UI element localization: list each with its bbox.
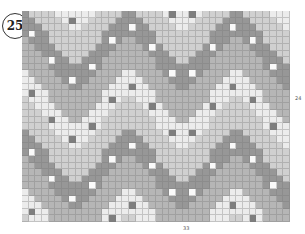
row-count-label: 24 xyxy=(295,95,301,101)
chart-cell xyxy=(76,44,83,51)
chart-cell xyxy=(42,18,49,25)
chart-cell xyxy=(183,44,190,51)
chart-cell xyxy=(263,182,270,189)
chart-cell xyxy=(183,189,190,196)
chart-cell xyxy=(230,176,237,183)
chart-cell xyxy=(35,84,42,91)
chart-cell xyxy=(102,130,109,137)
chart-cell xyxy=(169,77,176,84)
chart-cell xyxy=(283,202,290,209)
chart-cell xyxy=(35,103,42,110)
chart-cell xyxy=(29,163,36,170)
chart-cell xyxy=(163,117,170,124)
chart-cell xyxy=(216,123,223,130)
chart-cell xyxy=(69,51,76,58)
chart-cell xyxy=(163,189,170,196)
chart-cell xyxy=(169,103,176,110)
chart-cell xyxy=(62,196,69,203)
chart-cell xyxy=(149,51,156,58)
chart-cell xyxy=(89,70,96,77)
chart-cell xyxy=(42,163,49,170)
chart-cell xyxy=(196,18,203,25)
chart-cell xyxy=(96,182,103,189)
chart-cell xyxy=(250,169,257,176)
chart-cell xyxy=(129,156,136,163)
chart-cell xyxy=(116,37,123,44)
chart-cell xyxy=(129,182,136,189)
chart-cell xyxy=(136,209,143,216)
chart-cell xyxy=(189,136,196,143)
chart-cell xyxy=(223,44,230,51)
chart-cell xyxy=(183,51,190,58)
chart-cell xyxy=(82,64,89,71)
chart-cell xyxy=(89,176,96,183)
chart-cell xyxy=(42,169,49,176)
chart-cell xyxy=(270,18,277,25)
chart-cell xyxy=(116,31,123,38)
chart-cell xyxy=(42,97,49,104)
chart-cell xyxy=(283,149,290,156)
chart-cell xyxy=(149,97,156,104)
chart-cell xyxy=(263,44,270,51)
chart-cell xyxy=(62,77,69,84)
chart-cell xyxy=(156,51,163,58)
chart-cell xyxy=(270,70,277,77)
chart-cell xyxy=(96,31,103,38)
chart-cell xyxy=(102,57,109,64)
chart-cell xyxy=(143,70,150,77)
chart-cell xyxy=(49,97,56,104)
chart-cell xyxy=(183,130,190,137)
chart-cell xyxy=(256,117,263,124)
chart-cell xyxy=(176,123,183,130)
chart-cell xyxy=(96,77,103,84)
knitting-chart-grid xyxy=(22,11,290,222)
chart-cell xyxy=(149,215,156,222)
chart-cell xyxy=(143,196,150,203)
chart-cell xyxy=(122,163,129,170)
chart-cell xyxy=(69,136,76,143)
chart-cell xyxy=(283,44,290,51)
chart-cell xyxy=(49,70,56,77)
chart-cell xyxy=(223,156,230,163)
chart-cell xyxy=(49,130,56,137)
chart-cell xyxy=(156,90,163,97)
chart-cell xyxy=(116,11,123,18)
chart-cell xyxy=(136,84,143,91)
chart-cell xyxy=(136,90,143,97)
chart-cell xyxy=(62,156,69,163)
chart-cell xyxy=(223,215,230,222)
chart-cell xyxy=(156,202,163,209)
chart-cell xyxy=(49,90,56,97)
chart-cell xyxy=(29,209,36,216)
chart-cell xyxy=(196,90,203,97)
chart-cell xyxy=(69,24,76,31)
chart-cell xyxy=(176,64,183,71)
chart-cell xyxy=(263,37,270,44)
chart-cell xyxy=(189,202,196,209)
chart-cell xyxy=(42,77,49,84)
chart-cell xyxy=(96,149,103,156)
chart-cell xyxy=(96,156,103,163)
chart-cell xyxy=(236,18,243,25)
chart-cell xyxy=(243,149,250,156)
chart-cell xyxy=(116,57,123,64)
chart-cell xyxy=(116,136,123,143)
chart-cell xyxy=(210,182,217,189)
chart-cell xyxy=(55,169,62,176)
chart-cell xyxy=(189,57,196,64)
chart-cell xyxy=(96,24,103,31)
chart-cell xyxy=(62,136,69,143)
chart-cell xyxy=(122,182,129,189)
chart-cell xyxy=(283,97,290,104)
chart-cell xyxy=(29,143,36,150)
chart-cell xyxy=(149,64,156,71)
chart-cell xyxy=(136,149,143,156)
chart-cell xyxy=(143,11,150,18)
chart-cell xyxy=(250,123,257,130)
chart-cell xyxy=(109,84,116,91)
chart-cell xyxy=(149,103,156,110)
chart-cell xyxy=(89,143,96,150)
chart-cell xyxy=(163,169,170,176)
chart-cell xyxy=(89,117,96,124)
chart-cell xyxy=(55,64,62,71)
